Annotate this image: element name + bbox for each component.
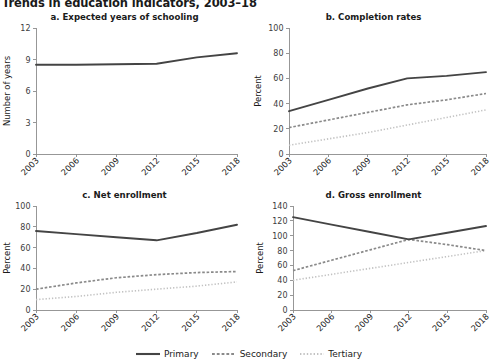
y-tick-label: 0	[282, 306, 287, 315]
dashed-line-swatch-icon	[212, 350, 236, 358]
x-tick-label: 2018	[469, 155, 491, 177]
y-tick-label: 80	[20, 223, 30, 232]
y-tick-label: 0	[25, 306, 30, 315]
y-tick-label: 60	[277, 261, 287, 270]
y-tick-label: 60	[20, 244, 30, 253]
y-tick-label: 80	[273, 49, 283, 58]
y-tick-label: 0	[278, 150, 283, 159]
x-tick-label: 2006	[59, 311, 81, 333]
y-tick-label: 140	[272, 202, 287, 211]
series-line-tertiary	[293, 251, 486, 281]
y-axis-title: Percent	[255, 242, 265, 274]
y-tick-label: 100	[268, 24, 283, 33]
series-line-tertiary	[289, 110, 486, 145]
y-tick-label: 40	[273, 100, 283, 109]
dotted-line-swatch-icon	[300, 350, 324, 358]
panel-d-plot: 0204060801001201402003200620092012201520…	[249, 200, 498, 350]
y-tick-label: 100	[15, 202, 30, 211]
figure-title: Trends in education indicators, 2003–18	[2, 0, 257, 10]
panel-a-title: a. Expected years of schooling	[0, 12, 249, 22]
series-line-primary	[36, 225, 237, 241]
solid-line-swatch-icon	[136, 350, 160, 358]
legend-item-tertiary: Tertiary	[300, 349, 362, 359]
panel-c-plot: 020406080100200320062009201220152018Perc…	[0, 200, 249, 350]
x-tick-label: 2009	[351, 155, 373, 177]
legend-label-tertiary: Tertiary	[328, 349, 362, 359]
panel-d-title: d. Gross enrollment	[249, 190, 498, 200]
x-tick-label: 2018	[220, 155, 242, 177]
series-line-secondary	[293, 239, 486, 270]
y-tick-label: 20	[273, 125, 283, 134]
x-tick-label: 2012	[390, 155, 412, 177]
y-tick-label: 40	[277, 276, 287, 285]
panel-b-title: b. Completion rates	[249, 12, 498, 22]
y-tick-label: 0	[25, 150, 30, 159]
series-line-primary	[289, 72, 486, 111]
x-tick-label: 2009	[99, 155, 121, 177]
legend-label-primary: Primary	[164, 349, 199, 359]
x-tick-label: 2012	[139, 311, 161, 333]
y-tick-label: 9	[25, 56, 30, 65]
y-tick-label: 20	[20, 285, 30, 294]
x-tick-label: 2006	[314, 311, 336, 333]
y-tick-label: 80	[277, 247, 287, 256]
x-tick-label: 2003	[19, 155, 41, 177]
x-tick-label: 2015	[430, 311, 452, 333]
x-tick-label: 2003	[272, 155, 294, 177]
y-axis-title: Number of years	[2, 56, 12, 126]
x-tick-label: 2018	[220, 311, 242, 333]
y-axis-title: Percent	[253, 75, 263, 107]
y-tick-label: 120	[272, 217, 287, 226]
x-tick-label: 2006	[59, 155, 81, 177]
legend-item-secondary: Secondary	[212, 349, 288, 359]
x-tick-label: 2003	[19, 311, 41, 333]
y-tick-label: 60	[273, 74, 283, 83]
legend-label-secondary: Secondary	[240, 349, 288, 359]
x-tick-label: 2015	[180, 155, 202, 177]
x-tick-label: 2006	[311, 155, 333, 177]
y-tick-label: 100	[272, 232, 287, 241]
series-line-secondary	[289, 94, 486, 128]
x-tick-label: 2018	[469, 311, 491, 333]
series-line-secondary	[36, 272, 237, 290]
series-line-tertiary	[36, 282, 237, 300]
chart-panel-c: c. Net enrollment 0204060801002003200620…	[0, 190, 249, 350]
y-tick-label: 20	[277, 291, 287, 300]
panel-c-title: c. Net enrollment	[0, 190, 249, 200]
x-tick-label: 2009	[99, 311, 121, 333]
y-tick-label: 6	[25, 87, 30, 96]
y-tick-label: 40	[20, 264, 30, 273]
x-tick-label: 2012	[392, 311, 414, 333]
panel-a-plot: 036912200320062009201220152018Number of …	[0, 22, 249, 194]
y-tick-label: 12	[20, 24, 30, 33]
chart-panel-b: b. Completion rates 02040608010020032006…	[249, 12, 498, 194]
x-tick-label: 2003	[276, 311, 298, 333]
x-tick-label: 2009	[353, 311, 375, 333]
chart-panel-a: a. Expected years of schooling 036912200…	[0, 12, 249, 194]
panel-b-plot: 020406080100200320062009201220152018Perc…	[249, 22, 498, 194]
x-tick-label: 2015	[180, 311, 202, 333]
x-tick-label: 2012	[139, 155, 161, 177]
y-axis-title: Percent	[2, 242, 12, 274]
chart-legend: Primary Secondary Tertiary	[0, 349, 498, 359]
figure-root: Trends in education indicators, 2003–18 …	[0, 0, 498, 360]
chart-panel-d: d. Gross enrollment 02040608010012014020…	[249, 190, 498, 350]
series-line-primary	[293, 217, 486, 239]
legend-item-primary: Primary	[136, 349, 199, 359]
x-tick-label: 2015	[429, 155, 451, 177]
series-line-primary	[36, 53, 237, 65]
y-tick-label: 3	[25, 119, 30, 128]
